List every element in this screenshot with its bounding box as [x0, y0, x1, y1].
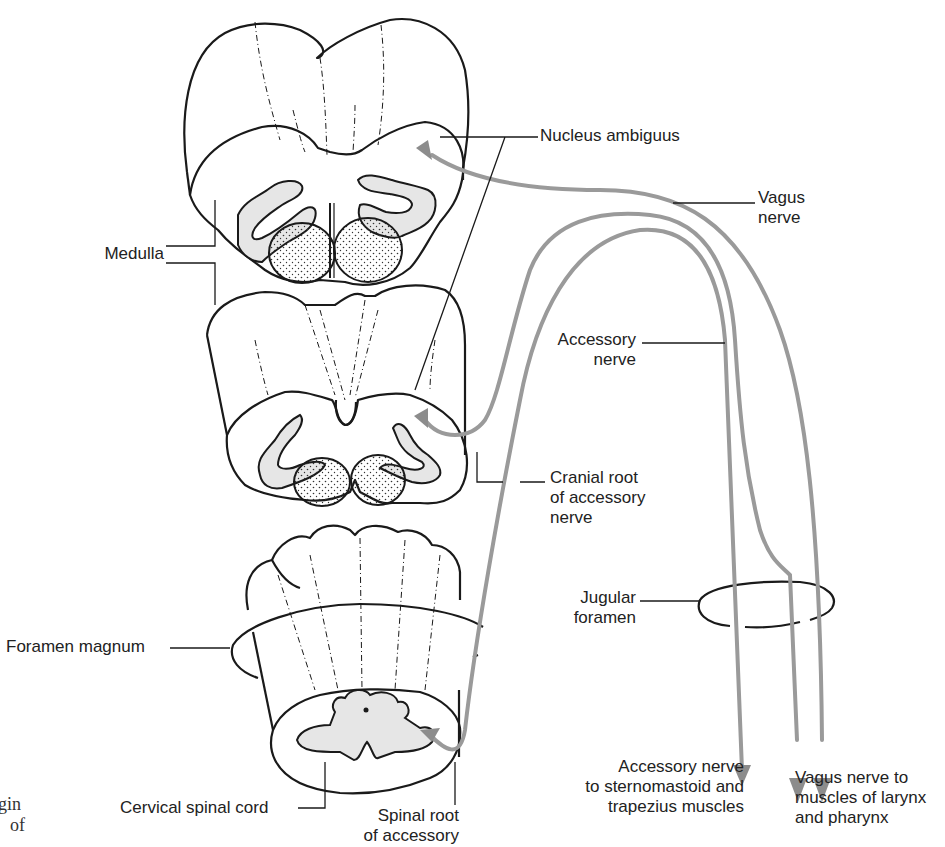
upper-pyramid-left	[269, 223, 335, 283]
label-jugular-foramen: Jugular foramen	[560, 588, 636, 628]
label-accessory-to-muscles: Accessory nerve to sternomastoid and tra…	[550, 757, 744, 817]
lower-medulla-surface-lines	[255, 300, 435, 400]
leader-medulla	[166, 200, 215, 305]
label-cranial-root: Cranial root of accessory nerve	[550, 468, 645, 528]
lower-pyramid-left	[294, 458, 350, 506]
diagram-canvas	[0, 0, 945, 847]
spinal-gray-matter	[297, 690, 434, 760]
arrow-nucleus-ambiguus-lower	[414, 408, 428, 428]
arrow-nucleus-ambiguus-upper	[416, 140, 432, 160]
label-medulla: Medulla	[80, 244, 164, 264]
label-spinal-root: Spinal root of accessory	[345, 806, 459, 846]
label-vagus-to-muscles: Vagus nerve to muscles of larynx and pha…	[795, 768, 926, 828]
caption-fragment-line1: gin	[0, 794, 21, 814]
caption-fragment-line2: of	[10, 815, 25, 835]
nerve-pathways	[425, 155, 822, 770]
upper-pyramid-right	[334, 218, 402, 282]
leader-lines	[166, 137, 755, 808]
central-canal	[364, 708, 369, 713]
foramen-magnum-ring	[232, 604, 483, 678]
lower-pyramid-right	[351, 455, 405, 505]
label-nucleus-ambiguus: Nucleus ambiguus	[540, 126, 680, 146]
label-cervical-spinal-cord: Cervical spinal cord	[120, 798, 268, 818]
jugular-foramen-ring	[699, 582, 834, 628]
label-accessory-nerve: Accessory nerve	[530, 330, 636, 370]
vagus-nerve-path	[432, 155, 822, 740]
label-vagus-nerve: Vagus nerve	[758, 188, 805, 228]
spinal-cord-surface-lines	[278, 538, 440, 690]
label-foramen-magnum: Foramen magnum	[6, 637, 145, 657]
